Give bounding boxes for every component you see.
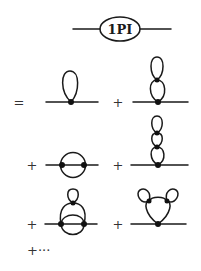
vertex (81, 162, 87, 168)
vertex (71, 201, 76, 206)
plus-sign: + (27, 158, 38, 173)
vertex (58, 221, 64, 227)
vertex (155, 162, 161, 168)
vertex (155, 78, 160, 83)
vertex (155, 131, 160, 136)
ellipsis-continuation: +··· (27, 243, 50, 258)
plus-sign: + (113, 217, 124, 232)
vertex (155, 145, 160, 150)
vertex (59, 162, 65, 168)
plus-sign: + (27, 217, 38, 232)
vertex (155, 99, 161, 105)
feynman-expansion-figure: 1PI = + + + + (0, 0, 201, 271)
vertex (68, 99, 74, 105)
1pi-blob-diagram: 1PI (73, 17, 171, 41)
plus-sign: + (113, 158, 124, 173)
vertex (81, 221, 87, 227)
vertex (155, 221, 161, 227)
sunset-diagram (46, 153, 98, 178)
loop-with-two-tadpoles-diagram (131, 189, 186, 227)
double-tadpole-diagram (133, 57, 188, 105)
sunset-with-tadpole-diagram (45, 189, 97, 235)
equals-sign: = (14, 95, 25, 110)
vertex (165, 199, 170, 204)
1pi-label: 1PI (108, 22, 133, 37)
tadpole-diagram (46, 71, 98, 105)
plus-sign: + (113, 95, 124, 110)
vertex (147, 199, 152, 204)
triple-tadpole-diagram (131, 116, 188, 168)
